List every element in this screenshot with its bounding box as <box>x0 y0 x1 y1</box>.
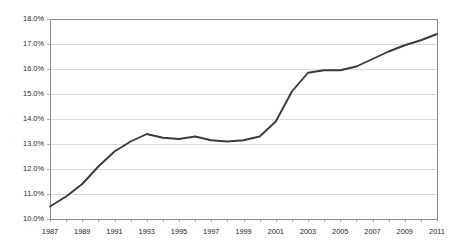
y-tick-label: 14.0% <box>23 114 44 123</box>
y-tick-label: 16.0% <box>23 64 44 73</box>
x-tick-label: 2001 <box>268 227 284 236</box>
y-tick-label: 12.0% <box>23 164 44 173</box>
data-line-series-1 <box>50 34 437 207</box>
y-axis-tick-labels: 10.0%11.0%12.0%13.0%14.0%15.0%16.0%17.0%… <box>23 14 44 223</box>
x-tick-label: 1995 <box>171 227 187 236</box>
x-tick-label: 1991 <box>106 227 122 236</box>
x-tick-label: 2009 <box>397 227 413 236</box>
chart-container: 10.0%11.0%12.0%13.0%14.0%15.0%16.0%17.0%… <box>0 0 451 249</box>
axis-tickmarks <box>47 20 438 223</box>
y-tick-label: 17.0% <box>23 39 44 48</box>
x-tick-label: 1993 <box>139 227 155 236</box>
line-chart: 10.0%11.0%12.0%13.0%14.0%15.0%16.0%17.0%… <box>0 0 451 249</box>
y-tick-label: 13.0% <box>23 139 44 148</box>
y-tick-label: 10.0% <box>23 214 44 223</box>
y-tick-label: 18.0% <box>23 14 44 23</box>
x-tick-label: 2007 <box>364 227 380 236</box>
x-tick-label: 1999 <box>235 227 251 236</box>
gridlines <box>50 20 437 195</box>
x-axis-tick-labels: 1987198919911993199519971999200120032005… <box>42 227 445 236</box>
x-tick-label: 2005 <box>332 227 348 236</box>
x-tick-label: 2011 <box>429 227 445 236</box>
x-tick-label: 1987 <box>42 227 58 236</box>
y-tick-label: 11.0% <box>24 189 45 198</box>
y-tick-label: 15.0% <box>23 89 44 98</box>
x-tick-label: 2003 <box>300 227 316 236</box>
data-series-group <box>50 34 437 207</box>
x-tick-label: 1989 <box>74 227 90 236</box>
x-tick-label: 1997 <box>203 227 219 236</box>
